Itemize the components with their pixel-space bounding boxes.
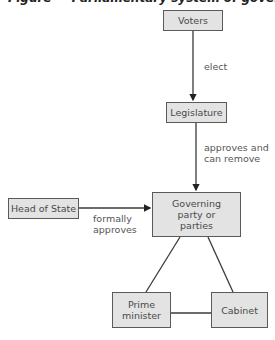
edge-label-approves-remove: approves and can remove: [204, 142, 274, 164]
diagram-edges: [0, 0, 275, 340]
node-legislature-label: Legislature: [170, 107, 222, 118]
node-governing-party: Governing party or parties: [152, 192, 241, 237]
node-voters-label: Voters: [178, 15, 208, 26]
node-prime-minister: Prime minister: [112, 292, 171, 328]
edge-label-elect: elect: [204, 61, 227, 72]
node-head-of-state: Head of State: [8, 198, 79, 219]
node-voters: Voters: [163, 10, 223, 31]
node-head-of-state-label: Head of State: [11, 203, 76, 214]
node-prime-minister-label: Prime minister: [121, 299, 162, 321]
node-governing-party-label: Governing party or parties: [161, 198, 232, 231]
edge-governing-cabinet: [208, 237, 233, 292]
node-cabinet: Cabinet: [211, 292, 268, 328]
node-legislature: Legislature: [166, 102, 227, 123]
edge-label-formally-approves: formally approves: [93, 213, 143, 235]
node-cabinet-label: Cabinet: [221, 305, 258, 316]
edge-governing-pm: [146, 237, 180, 292]
